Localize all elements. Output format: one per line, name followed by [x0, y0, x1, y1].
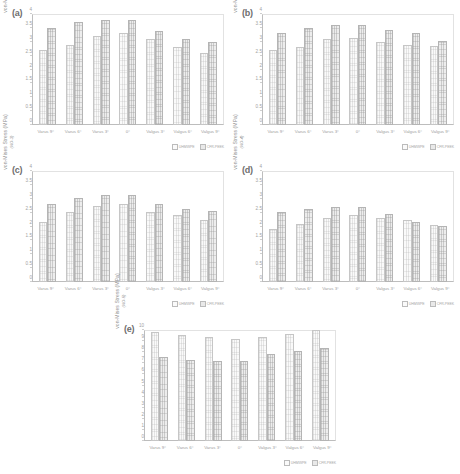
bar-cfr-peek [331, 25, 340, 125]
plot-area: 00.511.522.533.54 [32, 14, 224, 125]
x-axis-tick-label: Varus 3° [321, 129, 340, 141]
legend-label: UHMWPE [409, 145, 425, 149]
legend: UHMWPECFR-PEEK [172, 144, 224, 150]
bar-uhmwpe [93, 206, 102, 282]
x-axis-tick-label: Varus 6° [294, 286, 313, 298]
bar-group [323, 171, 340, 282]
x-axis-tick-label: 0° [348, 286, 367, 298]
bar-group [93, 14, 110, 125]
bar-cfr-peek [240, 361, 249, 441]
bar-group [376, 14, 393, 125]
x-axis-tick-label: Valgus 9° [201, 129, 220, 141]
bar-uhmwpe [312, 330, 321, 441]
plot-area: 00.511.522.533.54 [32, 171, 224, 282]
bar-uhmwpe [200, 220, 209, 282]
bar-cfr-peek [304, 209, 313, 282]
legend-label: UHMWPE [291, 461, 307, 465]
y-axis-tick-label: 4 [29, 164, 32, 169]
bar-uhmwpe [173, 47, 182, 125]
x-axis-tick-label: 0° [118, 129, 137, 141]
legend-swatch-icon [430, 301, 436, 307]
x-axis-labels: Varus 9°Varus 6°Varus 3°0°Valgus 3°Valgu… [32, 129, 224, 141]
bar-cfr-peek [304, 28, 313, 125]
x-axis-tick-label: Valgus 6° [285, 445, 304, 457]
y-axis-tick-label: 4 [29, 7, 32, 12]
bar-cfr-peek [213, 361, 222, 441]
x-axis-tick-label: Varus 9° [36, 286, 55, 298]
legend-item: CFR-PEEK [200, 301, 224, 307]
bar-uhmwpe [231, 339, 240, 441]
x-axis-tick-label: Valgus 3° [376, 286, 395, 298]
x-axis-labels: Varus 9°Varus 6°Varus 3°0°Valgus 3°Valgu… [144, 445, 336, 457]
bar-group [231, 330, 248, 441]
x-axis-tick-label: Varus 9° [266, 286, 285, 298]
x-axis-tick-label: Valgus 3° [376, 129, 395, 141]
x-axis-tick-label: 0° [348, 129, 367, 141]
y-axis-tick-label: 4 [259, 164, 262, 169]
bar-uhmwpe [258, 337, 267, 441]
plot-area: 00.511.522.533.54 [262, 14, 454, 125]
bar-group [66, 171, 83, 282]
bar-cfr-peek [358, 207, 367, 282]
bar-uhmwpe [376, 42, 385, 125]
bar-cfr-peek [320, 348, 329, 441]
x-axis-labels: Varus 9°Varus 6°Varus 3°0°Valgus 3°Valgu… [262, 286, 454, 298]
y-axis-tick-label: 10 [139, 323, 144, 328]
x-axis-tick-label: Varus 9° [266, 129, 285, 141]
bar-group [66, 14, 83, 125]
bar-uhmwpe [349, 38, 358, 125]
legend-swatch-icon [200, 301, 206, 307]
bar-uhmwpe [296, 47, 305, 125]
x-axis-labels: Varus 9°Varus 6°Varus 3°0°Valgus 3°Valgu… [32, 286, 224, 298]
bar-uhmwpe [151, 332, 160, 441]
chart-panel-e: (e)von-Mises Stress (MPa)(NO-5)012345678… [112, 316, 342, 474]
x-axis-tick-label: Valgus 3° [146, 129, 165, 141]
bar-cfr-peek [74, 198, 83, 282]
bar-cfr-peek [412, 33, 421, 125]
x-axis-tick-label: Valgus 9° [313, 445, 332, 457]
legend-swatch-icon [402, 301, 408, 307]
bar-uhmwpe [403, 45, 412, 125]
x-axis-tick-label: Varus 6° [64, 129, 83, 141]
bar-cfr-peek [159, 357, 168, 441]
bar-uhmwpe [285, 334, 294, 441]
y-axis-title-sub: (NO-3) [9, 99, 14, 185]
bar-uhmwpe [376, 218, 385, 282]
x-axis-tick-label: 0° [230, 445, 249, 457]
bar-uhmwpe [66, 45, 75, 125]
legend-swatch-icon [172, 301, 178, 307]
bar-uhmwpe [39, 50, 48, 125]
legend-swatch-icon [430, 144, 436, 150]
legend-item: CFR-PEEK [200, 144, 224, 150]
bar-group [285, 330, 302, 441]
bar-group [349, 14, 366, 125]
chart-panel-b: (b)von-Mises Stress (MPa)(NO-2)00.511.52… [230, 0, 460, 159]
bar-cfr-peek [155, 204, 164, 282]
y-axis-title-main: von-Mises Stress (MPa) [114, 258, 120, 344]
y-axis-tick-label: 4 [259, 7, 262, 12]
bar-uhmwpe [146, 212, 155, 282]
bar-cfr-peek [438, 226, 447, 282]
bar-cfr-peek [128, 20, 137, 125]
bar-cfr-peek [208, 211, 217, 282]
bar-uhmwpe [403, 220, 412, 282]
bar-cfr-peek [208, 42, 217, 125]
bar-cfr-peek [277, 212, 286, 282]
bar-group [269, 171, 286, 282]
legend-label: CFR-PEEK [437, 145, 454, 149]
x-axis-tick-label: Varus 9° [36, 129, 55, 141]
y-axis-title-main: von-Mises Stress (MPa) [232, 99, 238, 185]
legend-swatch-icon [200, 144, 206, 150]
y-axis-title: von-Mises Stress (MPa)(NO-2) [232, 0, 244, 28]
bar-uhmwpe [430, 225, 439, 282]
legend-item: CFR-PEEK [312, 460, 336, 466]
bar-group [119, 14, 136, 125]
bar-group [323, 14, 340, 125]
bar-cfr-peek [385, 214, 394, 282]
x-axis-tick-label: Varus 3° [203, 445, 222, 457]
bar-group-container [32, 171, 224, 282]
chart-panel-a: (a)von-Mises Stress (MPa)(NO-1)00.511.52… [0, 0, 230, 159]
bar-uhmwpe [269, 229, 278, 282]
bar-uhmwpe [119, 33, 128, 125]
bar-cfr-peek [438, 41, 447, 125]
